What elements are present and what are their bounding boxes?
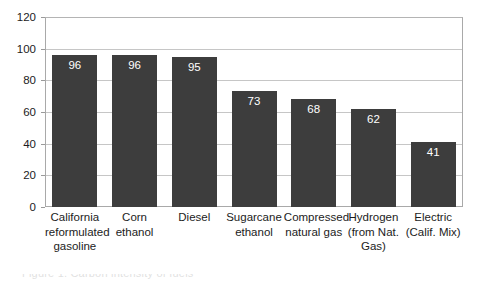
- x-axis-category-labels: CaliforniareformulatedgasolineCornethano…: [45, 210, 463, 272]
- x-axis-category-label: Hydrogen(from Nat.Gas): [344, 210, 404, 254]
- category-label-line: ethanol: [105, 225, 165, 240]
- y-axis-tick-label: 120: [17, 11, 36, 23]
- category-label-line: California: [45, 210, 105, 225]
- category-label-line: natural gas: [284, 225, 344, 240]
- bar-chart-figure: 020406080100120 96969573686241 Californi…: [0, 0, 483, 281]
- bar: 95: [172, 57, 217, 207]
- x-axis-category-label: Compressednatural gas: [284, 210, 344, 239]
- x-axis-category-label: Sugarcaneethanol: [224, 210, 284, 239]
- y-axis-tick-label: 100: [17, 43, 36, 55]
- bar: 68: [291, 99, 336, 207]
- y-axis-tick-label: 20: [23, 169, 36, 181]
- category-label-line: (Calif. Mix): [403, 225, 463, 240]
- page-bottom-artifact: Figure 1. Carbon intensity of fuels: [0, 274, 483, 281]
- y-axis-tick-label: 80: [23, 74, 36, 86]
- category-label-line: Electric: [403, 210, 463, 225]
- bar: 96: [52, 55, 97, 207]
- y-axis: 020406080100120: [0, 17, 45, 207]
- bar: 73: [232, 91, 277, 207]
- bar: 96: [112, 55, 157, 207]
- bar-value-label: 41: [411, 146, 456, 159]
- bars-layer: 96969573686241: [45, 17, 463, 207]
- bar-value-label: 62: [351, 113, 396, 126]
- artifact-text: Figure 1. Carbon intensity of fuels: [22, 274, 193, 279]
- category-label-line: reformulated: [45, 225, 105, 240]
- category-label-line: (from Nat.: [344, 225, 404, 240]
- category-label-line: Diesel: [164, 210, 224, 225]
- bar-value-label: 73: [232, 95, 277, 108]
- bar-value-label: 96: [52, 59, 97, 72]
- bar-value-label: 68: [291, 103, 336, 116]
- category-label-line: Sugarcane: [224, 210, 284, 225]
- bar: 62: [351, 109, 396, 207]
- category-label-line: ethanol: [224, 225, 284, 240]
- bar: 41: [411, 142, 456, 207]
- y-axis-tick-mark: [41, 207, 45, 208]
- x-axis-category-label: Californiareformulatedgasoline: [45, 210, 105, 254]
- category-label-line: Gas): [344, 239, 404, 254]
- x-axis-category-label: Cornethanol: [105, 210, 165, 239]
- category-label-line: Compressed: [284, 210, 344, 225]
- category-label-line: Corn: [105, 210, 165, 225]
- category-label-line: gasoline: [45, 239, 105, 254]
- y-axis-tick-label: 40: [23, 138, 36, 150]
- bar-value-label: 96: [112, 59, 157, 72]
- y-axis-tick-label: 0: [30, 201, 36, 213]
- x-axis-category-label: Electric(Calif. Mix): [403, 210, 463, 239]
- category-label-line: Hydrogen: [344, 210, 404, 225]
- y-axis-tick-label: 60: [23, 106, 36, 118]
- bar-value-label: 95: [172, 61, 217, 74]
- x-axis-category-label: Diesel: [164, 210, 224, 225]
